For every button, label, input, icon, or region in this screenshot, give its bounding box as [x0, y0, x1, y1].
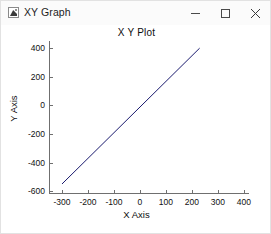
y-tick-label: -400	[28, 158, 45, 168]
x-tick-label: -200	[79, 197, 96, 207]
x-tick-label: -100	[105, 197, 122, 207]
minimize-button[interactable]	[180, 1, 210, 25]
minimize-icon	[191, 13, 200, 14]
data-series-line	[49, 41, 249, 194]
x-tick-label: 0	[138, 197, 143, 207]
close-icon	[250, 8, 261, 19]
series-polyline	[62, 48, 200, 184]
xy-graph-window: XY Graph X Y Plot -600-400-2000200400 -3…	[0, 0, 271, 234]
x-axis-label: X Axis	[1, 209, 271, 220]
y-tick-label: 200	[31, 72, 45, 82]
y-tick-label: 400	[31, 43, 45, 53]
maximize-icon	[221, 9, 230, 18]
figure-app-icon-dot	[15, 9, 17, 11]
close-button[interactable]	[240, 1, 270, 25]
figure-canvas: X Y Plot -600-400-2000200400 -300-200-10…	[1, 25, 271, 234]
window-title: XY Graph	[24, 6, 71, 18]
maximize-button[interactable]	[210, 1, 240, 25]
x-tick-label: 300	[211, 197, 225, 207]
x-tick-label: 400	[237, 197, 251, 207]
plot-axes: -600-400-2000200400 -300-200-10001002003…	[49, 41, 249, 194]
x-tick-label: 200	[185, 197, 199, 207]
y-tick-label: -200	[28, 129, 45, 139]
title-bar: XY Graph	[1, 1, 271, 25]
y-axis-label: Y Axis	[8, 79, 19, 139]
x-tick-label: 100	[159, 197, 173, 207]
plot-title: X Y Plot	[1, 27, 271, 38]
figure-app-icon	[8, 7, 19, 18]
x-tick-label: -300	[53, 197, 70, 207]
y-tick-label: 0	[40, 100, 45, 110]
y-tick-label: -600	[28, 186, 45, 196]
